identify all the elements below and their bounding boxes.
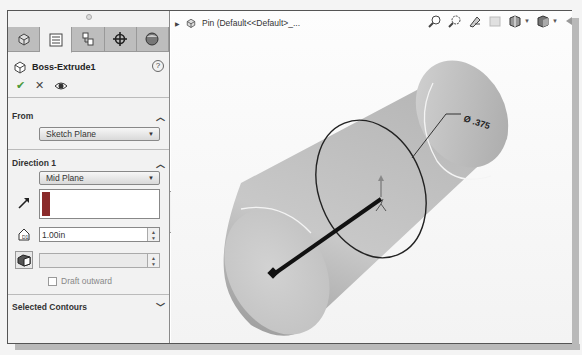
tab-dimxpert-manager[interactable]	[105, 27, 137, 51]
draft-outward-checkbox[interactable]	[48, 277, 57, 286]
depth-value: 1.00in	[42, 230, 65, 240]
selection-color-bar	[42, 192, 50, 216]
expand-triangle-icon[interactable]: ▶	[175, 20, 180, 27]
direction-arrow-icon[interactable]	[16, 195, 32, 211]
section-divider	[8, 149, 169, 150]
help-icon[interactable]: ?	[152, 60, 164, 72]
feature-title: Boss-Extrude1 ?	[14, 58, 164, 76]
feature-name: Boss-Extrude1	[32, 62, 96, 72]
direction-selection-box[interactable]	[39, 189, 160, 219]
direction1-section-title: Direction 1	[12, 158, 56, 168]
manager-tabs	[8, 27, 169, 52]
tab-configuration-manager[interactable]	[72, 27, 104, 51]
depth-input[interactable]: 1.00in ▲▼	[39, 227, 160, 242]
panel-grip-handle[interactable]	[86, 14, 92, 20]
cancel-button[interactable]: ✕	[35, 79, 44, 92]
draft-icon	[16, 252, 32, 268]
part-name-label: Pin (Default<<Default>_...	[202, 18, 300, 28]
collapse-chevron-icon[interactable]: ︿	[156, 110, 165, 123]
selected-contours-section-header[interactable]: Selected Contours ﹀	[12, 300, 165, 314]
from-section-title: From	[12, 111, 33, 121]
appearance-sphere-icon	[144, 31, 160, 47]
preview-eye-icon[interactable]	[54, 81, 68, 91]
dropdown-arrow-icon: ▼	[148, 131, 154, 137]
zoom-to-area-icon[interactable]	[448, 14, 462, 28]
collapse-chevron-icon[interactable]: ︿	[156, 157, 165, 170]
depth-icon: D1	[16, 226, 32, 242]
draft-angle-input[interactable]: ▲▼	[39, 253, 160, 268]
heads-up-view-toolbar: ▼ ▼	[428, 14, 572, 28]
tab-display-manager[interactable]	[137, 27, 169, 51]
section-view-icon[interactable]	[488, 14, 502, 28]
graphics-viewport[interactable]: Ø .375 ▶ Pin (Default<<Default>_... ▼ ▼	[171, 11, 572, 343]
property-list-icon	[48, 32, 64, 48]
window-shadow	[572, 18, 579, 350]
window-shadow	[15, 344, 580, 350]
section-divider	[8, 97, 169, 98]
direction1-section-header[interactable]: Direction 1 ︿	[12, 156, 165, 170]
part-icon	[16, 31, 32, 47]
dropdown-arrow-icon[interactable]: ▼	[552, 18, 558, 24]
zoom-to-fit-icon[interactable]	[428, 14, 442, 28]
draft-outward-row[interactable]: Draft outward	[48, 276, 112, 286]
solidworks-window: Boss-Extrude1 ? ✔ ✕ From ︿ Sketch Plane …	[7, 10, 572, 344]
feature-tree-flyout[interactable]: ▶ Pin (Default<<Default>_...	[175, 17, 300, 29]
configuration-icon	[80, 31, 96, 47]
draft-toggle-button[interactable]	[15, 251, 33, 269]
from-section-header[interactable]: From ︿	[12, 109, 165, 123]
part-icon	[185, 17, 197, 29]
view-orientation-icon[interactable]	[508, 14, 522, 28]
tab-feature-manager[interactable]	[8, 27, 40, 51]
extrude-feature-icon	[14, 61, 26, 74]
from-dropdown[interactable]: Sketch Plane ▼	[39, 127, 160, 141]
dropdown-arrow-icon[interactable]: ▼	[524, 18, 530, 24]
expand-chevron-icon[interactable]: ﹀	[156, 301, 165, 314]
section-divider	[8, 294, 169, 295]
end-condition-value: Mid Plane	[46, 173, 84, 183]
draft-outward-label: Draft outward	[61, 276, 112, 286]
property-manager-panel: Boss-Extrude1 ? ✔ ✕ From ︿ Sketch Plane …	[8, 11, 170, 343]
hide-show-items-icon[interactable]	[564, 14, 572, 28]
cylinder-model: Ø .375	[171, 11, 572, 343]
end-condition-dropdown[interactable]: Mid Plane ▼	[39, 171, 160, 185]
display-style-icon[interactable]	[536, 14, 550, 28]
from-dropdown-value: Sketch Plane	[46, 129, 96, 139]
action-buttons: ✔ ✕	[16, 79, 68, 92]
tab-property-manager[interactable]	[40, 27, 72, 53]
ok-button[interactable]: ✔	[16, 79, 25, 92]
draft-angle-stepper[interactable]: ▲▼	[147, 254, 159, 267]
depth-stepper[interactable]: ▲▼	[147, 228, 159, 241]
previous-view-icon[interactable]	[468, 14, 482, 28]
dropdown-arrow-icon: ▼	[148, 175, 154, 181]
selected-contours-title: Selected Contours	[12, 302, 87, 312]
svg-text:D1: D1	[22, 234, 29, 240]
crosshair-icon	[112, 31, 128, 47]
